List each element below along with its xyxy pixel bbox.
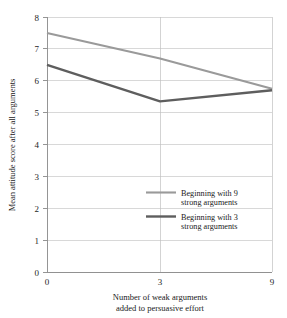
y-axis-ticks: [43, 17, 47, 272]
y-tick-label-0: 0: [35, 268, 40, 278]
y-tick-label-5: 5: [35, 108, 40, 118]
legend-label-beginning-with-9-line1: Beginning with 9: [181, 189, 238, 198]
y-tick-label-8: 8: [35, 13, 40, 23]
legend-label-beginning-with-3-line1: Beginning with 3: [181, 213, 238, 222]
y-tick-label-2: 2: [35, 204, 40, 214]
legend-label-beginning-with-3-line2: strong arguments: [181, 222, 237, 231]
x-axis-title-line1: Number of weak arguments: [113, 292, 208, 302]
x-tick-label-9: 9: [270, 277, 275, 287]
x-tick-label-0: 0: [45, 277, 50, 287]
y-axis-title: Mean attitude score after all arguments: [7, 79, 17, 212]
line-chart: 8 7 6 5 4 3 2 1 0 0 3 9 Beginning with 9…: [0, 0, 287, 318]
y-tick-label-1: 1: [35, 236, 40, 246]
y-tick-label-4: 4: [35, 140, 40, 150]
x-tick-label-3: 3: [158, 277, 163, 287]
chart-container: 8 7 6 5 4 3 2 1 0 0 3 9 Beginning with 9…: [0, 0, 287, 318]
y-tick-label-6: 6: [35, 76, 40, 86]
x-axis-title-line2: added to persuasive effort: [116, 303, 205, 313]
y-tick-label-3: 3: [35, 172, 40, 182]
legend-label-beginning-with-9-line2: strong arguments: [181, 198, 237, 207]
y-tick-label-7: 7: [35, 44, 40, 54]
